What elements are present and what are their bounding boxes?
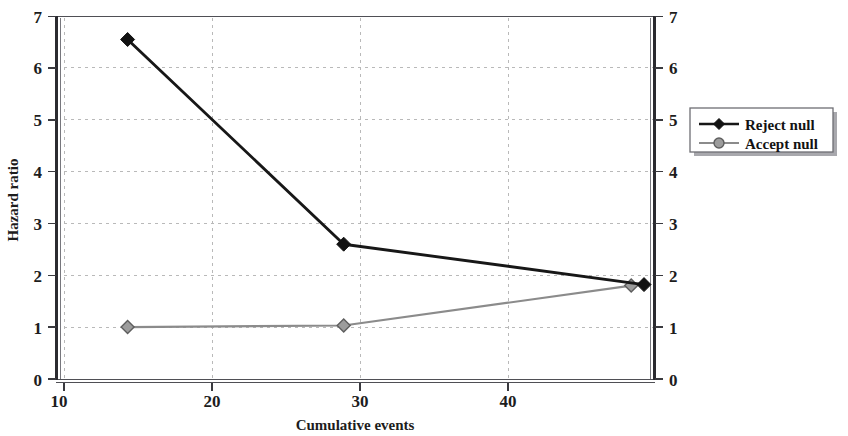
x-axis-title: Cumulative events — [296, 417, 415, 433]
ytick-label-right-5: 5 — [669, 111, 678, 130]
legend-marker-circle-icon — [714, 138, 724, 148]
ytick-label-left-6: 6 — [34, 59, 43, 78]
y-axis-left: 7 6 5 4 3 2 1 0 — [34, 8, 57, 390]
xtick-label-40: 40 — [500, 392, 517, 411]
chart-canvas: 7 6 5 4 3 2 1 0 7 6 5 4 3 2 1 0 — [0, 0, 848, 436]
legend-label-reject-null: Reject null — [745, 117, 815, 133]
ytick-label-left-0: 0 — [34, 371, 43, 390]
ytick-label-right-7: 7 — [669, 8, 678, 27]
ytick-label-right-0: 0 — [669, 371, 678, 390]
xtick-label-10: 10 — [51, 392, 68, 411]
ytick-label-left-5: 5 — [34, 111, 43, 130]
ytick-label-left-7: 7 — [34, 8, 43, 27]
ytick-label-right-1: 1 — [669, 319, 678, 338]
xtick-label-30: 30 — [352, 392, 369, 411]
y-axis-right: 7 6 5 4 3 2 1 0 — [655, 8, 678, 390]
ytick-label-right-2: 2 — [669, 267, 678, 286]
ytick-label-left-1: 1 — [34, 319, 43, 338]
ytick-label-right-4: 4 — [669, 163, 678, 182]
xtick-label-20: 20 — [204, 392, 221, 411]
legend-label-accept-null: Accept null — [745, 136, 818, 152]
ytick-label-left-4: 4 — [34, 163, 43, 182]
y-axis-title: Hazard ratio — [5, 159, 21, 242]
chart-legend: Reject null Accept null — [690, 108, 837, 156]
x-axis: 10 20 30 40 — [51, 383, 517, 411]
ytick-label-left-3: 3 — [34, 215, 43, 234]
ytick-label-right-6: 6 — [669, 59, 678, 78]
hazard-ratio-line-chart: 7 6 5 4 3 2 1 0 7 6 5 4 3 2 1 0 — [0, 0, 848, 436]
ytick-label-right-3: 3 — [669, 215, 678, 234]
ytick-label-left-2: 2 — [34, 267, 43, 286]
